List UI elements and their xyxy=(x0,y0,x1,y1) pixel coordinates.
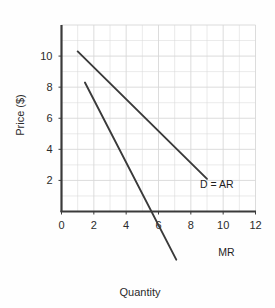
chart-figure: 024681012 246810 D = ARMR Quantity Price… xyxy=(0,0,275,308)
x-tick-label: 12 xyxy=(249,219,261,231)
y-axis-title: Price ($) xyxy=(14,94,26,136)
y-tick-label: 6 xyxy=(46,112,52,124)
x-tick-label: 10 xyxy=(217,219,229,231)
y-tick-label: 4 xyxy=(46,143,52,155)
y-axis-tick-labels: 246810 xyxy=(40,50,52,186)
x-tick-label: 2 xyxy=(91,219,97,231)
x-tick-label: 0 xyxy=(58,219,64,231)
x-axis-title: Quantity xyxy=(120,286,161,298)
series-label-mr: MR xyxy=(218,246,235,258)
y-tick-label: 10 xyxy=(40,50,52,62)
price-quantity-line-chart: 024681012 246810 D = ARMR Quantity Price… xyxy=(0,0,275,308)
y-tick-label: 2 xyxy=(46,174,52,186)
x-tick-label: 8 xyxy=(188,219,194,231)
series-label-d-ar: D = AR xyxy=(200,178,234,190)
y-tick-label: 8 xyxy=(46,81,52,93)
x-tick-label: 4 xyxy=(123,219,129,231)
